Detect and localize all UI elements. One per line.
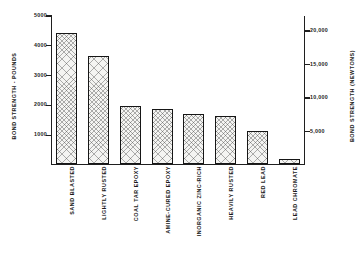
- bar: [88, 56, 109, 165]
- bar-series: [51, 16, 305, 165]
- bar: [215, 116, 236, 165]
- y-axis-left-tick-label: 2000: [7, 102, 47, 107]
- y-axis-right-tick-label: 5,000: [310, 129, 354, 134]
- y-axis-left-tick-label: 1000: [7, 132, 47, 137]
- y-axis-left-tick-label: 5000: [7, 13, 47, 18]
- x-axis-category-label: INORGANIC ZINC-RICH: [196, 166, 202, 236]
- x-axis-category-label: HEAVILY RUSTED: [228, 166, 234, 220]
- x-axis-category-label: COAL TAR EPOXY: [133, 166, 139, 221]
- x-axis-category-label: RED LEAD: [260, 166, 266, 198]
- x-axis-category-label: LIGHTLY RUSTED: [101, 166, 107, 220]
- bar: [152, 109, 173, 165]
- y-axis-right-tick-label: 10,000: [310, 95, 354, 100]
- bond-strength-bar-chart: BOND STRENGTH - POUNDS BOND STRENGTH (NE…: [0, 0, 363, 279]
- bar: [279, 159, 300, 165]
- x-axis-category-label: LEAD CHROMATE: [292, 166, 298, 220]
- bar: [247, 131, 268, 164]
- plot-area: 10002000300040005000 5,00010,00015,00020…: [51, 16, 305, 165]
- bar: [120, 106, 141, 164]
- bar: [183, 114, 204, 164]
- y-axis-left-tick-label: 3000: [7, 73, 47, 78]
- x-axis-category-labels: SAND BLASTEDLIGHTLY RUSTEDCOAL TAR EPOXY…: [51, 166, 305, 278]
- bar: [56, 33, 77, 164]
- y-axis-left-title: BOND STRENGTH - POUNDS: [11, 30, 17, 162]
- y-axis-right-tick-label: 15,000: [310, 62, 354, 67]
- y-axis-left-tick-label: 4000: [7, 43, 47, 48]
- y-axis-right-tick-label: 20,000: [310, 28, 354, 33]
- x-axis-category-label: SAND BLASTED: [69, 166, 75, 215]
- x-axis-category-label: AMINE-CURED EPOXY: [165, 166, 171, 234]
